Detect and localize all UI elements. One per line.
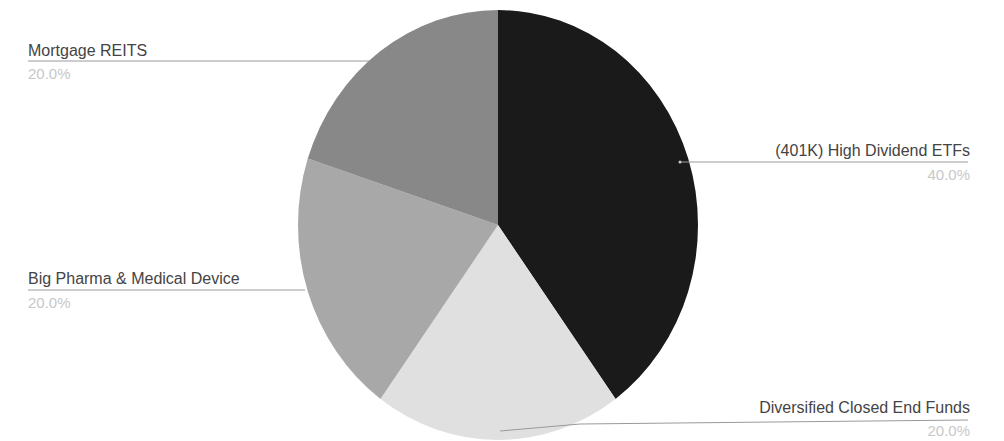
slice-label-pharma: Big Pharma & Medical Device <box>28 270 240 288</box>
slice-label-reits: Mortgage REITS <box>28 42 147 60</box>
slice-label-cef: Diversified Closed End Funds <box>759 399 970 417</box>
pie-slices <box>298 10 698 440</box>
slice-percent-cef: 20.0% <box>927 422 970 440</box>
slice-label-etfs: (401K) High Dividend ETFs <box>775 142 970 160</box>
slice-percent-reits: 20.0% <box>28 65 71 83</box>
pie-chart <box>0 0 1004 441</box>
leader-dot-etfs <box>679 161 682 164</box>
slice-percent-etfs: 40.0% <box>927 166 970 184</box>
slice-percent-pharma: 20.0% <box>28 294 71 312</box>
